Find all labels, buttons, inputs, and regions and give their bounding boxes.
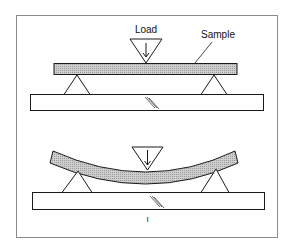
load-label: Load [135,24,157,35]
sample-bar-straight [54,64,237,75]
base-plate-bottom [33,193,265,210]
bending-test-diagram: Load Sample [0,0,291,248]
sample-label: Sample [201,29,235,40]
mark-label: I [146,215,148,224]
base-plate-top [31,95,264,111]
